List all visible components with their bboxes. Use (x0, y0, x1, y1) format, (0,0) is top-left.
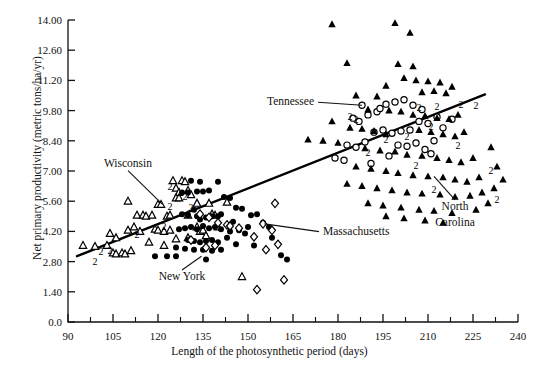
x-tick-label: 225 (465, 330, 482, 342)
figure-root: 0.01.402.804.205.607.008.409.8011.2012.6… (0, 0, 539, 375)
duplicate-count-label: 2 (354, 114, 359, 125)
x-axis-ticks: 90105120135150165180195210225240 (63, 314, 527, 342)
y-tick-label: 4.20 (43, 225, 63, 237)
annotation-tennessee: Tennessee (267, 95, 314, 107)
y-axis-title: Net primary productivity (metric tons/ha… (31, 38, 43, 278)
x-tick-label: 105 (105, 330, 122, 342)
y-tick-label: 1.40 (43, 286, 63, 298)
annotation-massachusetts: Massachusetts (323, 225, 390, 237)
duplicate-count-label: 2 (108, 245, 113, 256)
duplicate-count-label: 2 (162, 221, 167, 232)
duplicate-count-label: 2 (99, 246, 104, 257)
duplicate-count-label: 2 (348, 111, 353, 122)
duplicate-count-label: 2 (489, 165, 494, 176)
x-tick-label: 135 (195, 330, 212, 342)
x-tick-label: 150 (240, 330, 257, 342)
x-tick-label: 120 (150, 330, 167, 342)
duplicate-count-label: 2 (168, 201, 173, 212)
duplicate-count-label: 2 (93, 256, 98, 267)
x-tick-label: 90 (63, 330, 75, 342)
series-north-carolina: 222222222 (304, 19, 506, 225)
y-tick-label: 7.00 (43, 165, 63, 177)
duplicate-count-label: 2 (168, 181, 173, 192)
x-tick-label: 165 (285, 330, 302, 342)
y-tick-label: 0.0 (48, 316, 62, 328)
y-tick-label: 2.80 (43, 256, 63, 268)
duplicate-count-label: 2 (429, 121, 434, 132)
x-tick-label: 180 (330, 330, 347, 342)
y-tick-label: 5.60 (43, 195, 63, 207)
duplicate-count-label: 2 (405, 131, 410, 142)
duplicate-count-label: 2 (414, 160, 419, 171)
y-tick-label: 9.80 (43, 105, 63, 117)
duplicate-count-label: 2 (135, 229, 140, 240)
y-tick-label: 14.00 (37, 14, 62, 26)
duplicate-count-label: 2 (459, 99, 464, 110)
x-tick-label: 210 (420, 330, 437, 342)
scatter-plot-canvas: 0.01.402.804.205.607.008.409.8011.2012.6… (0, 0, 539, 375)
duplicate-count-label: 2 (474, 100, 479, 111)
duplicate-count-label: 2 (435, 101, 440, 112)
x-tick-label: 240 (510, 330, 527, 342)
annotation-new-york: New York (159, 270, 206, 282)
duplicate-count-label: 2 (432, 184, 437, 195)
x-axis-title: Length of the photosynthetic period (day… (0, 345, 539, 357)
y-tick-label: 8.40 (43, 135, 63, 147)
x-tick-label: 195 (375, 330, 392, 342)
duplicate-count-label: 2 (495, 194, 500, 205)
duplicate-count-label: 2 (417, 102, 422, 113)
duplicate-count-label: 2 (456, 140, 461, 151)
annotation-north-carolina-line2: Carolina (435, 216, 475, 228)
annotation-wisconsin: Wisconsin (104, 157, 152, 169)
annotation-north-carolina: North (442, 200, 469, 212)
